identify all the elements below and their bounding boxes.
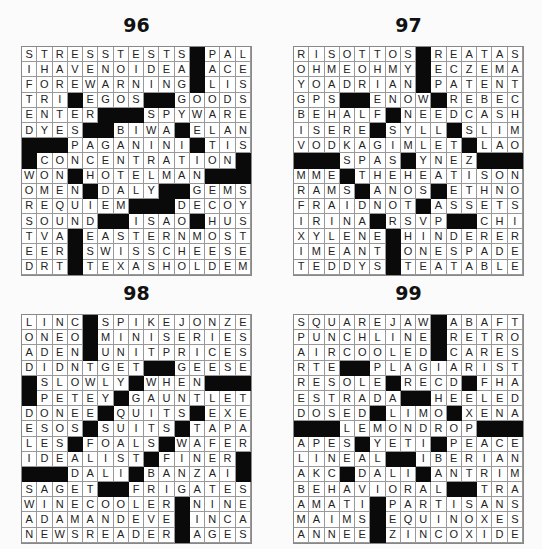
letter-cell: T [431,497,446,512]
letter-cell: S [159,421,174,436]
letter-cell: I [309,47,324,62]
letter-cell: T [236,229,251,244]
letter-cell: S [447,199,462,214]
black-square [386,376,401,391]
letter-cell: V [416,214,431,229]
letter-cell: A [220,47,235,62]
black-square [83,315,98,330]
letter-cell: S [144,47,159,62]
letter-cell: H [159,376,174,391]
letter-cell: D [447,108,462,123]
letter-cell: I [205,330,220,345]
letter-cell: C [447,345,462,360]
puzzle-98: 98 LINCSPIKEJONZEONEOMINISERIESADENUNITP… [21,314,252,544]
black-square [340,169,355,184]
letter-cell: I [492,123,507,138]
letter-cell: D [508,391,523,406]
black-square [370,497,385,512]
puzzle-number: 99 [293,282,524,304]
letter-cell: A [447,77,462,92]
black-square [190,62,205,77]
letter-cell: I [294,123,309,138]
black-square [98,406,113,421]
letter-cell: T [401,437,416,452]
letter-cell: O [309,406,324,421]
letter-cell: H [477,184,492,199]
letter-cell: Y [401,62,416,77]
letter-cell: N [175,467,190,482]
black-square [294,421,309,436]
letter-cell: G [129,391,144,406]
letter-cell: E [236,108,251,123]
letter-cell: T [83,361,98,376]
black-square [447,482,462,497]
letter-cell: I [325,214,340,229]
black-square [98,108,113,123]
letter-cell: M [416,406,431,421]
letter-cell: C [83,497,98,512]
letter-cell: S [401,47,416,62]
letter-cell: J [175,315,190,330]
letter-cell: V [355,482,370,497]
letter-cell: Y [401,123,416,138]
letter-cell: G [98,138,113,153]
black-square [236,452,251,467]
letter-cell: B [431,452,446,467]
letter-cell: O [98,437,113,452]
letter-cell: S [325,47,340,62]
black-square [68,93,83,108]
letter-cell: E [355,123,370,138]
black-square [53,467,68,482]
letter-cell: E [83,93,98,108]
black-square [98,214,113,229]
letter-cell: E [205,244,220,259]
letter-cell: T [205,138,220,153]
letter-cell: R [159,229,174,244]
letter-cell: R [355,315,370,330]
letter-cell: E [83,62,98,77]
letter-cell: A [159,214,174,229]
letter-cell: C [159,244,174,259]
letter-cell: S [447,244,462,259]
letter-cell: I [129,315,144,330]
letter-cell: A [114,184,129,199]
letter-cell: E [340,406,355,421]
letter-cell: E [220,391,235,406]
black-square [309,421,324,436]
letter-cell: L [477,391,492,406]
letter-cell: A [294,345,309,360]
letter-cell: E [325,244,340,259]
black-square [236,376,251,391]
letter-cell: R [236,437,251,452]
letter-cell: S [386,123,401,138]
black-square [159,199,174,214]
letter-cell: V [294,138,309,153]
puzzle-97: 97 RISOTTOSREATASOHMEOHMYECZEMAYOADRIANP… [293,46,524,276]
letter-cell: C [340,330,355,345]
letter-cell: M [294,512,309,527]
letter-cell: A [53,229,68,244]
letter-cell: B [477,260,492,275]
letter-cell: M [114,199,129,214]
letter-cell: Y [370,437,385,452]
letter-cell: E [309,108,324,123]
letter-cell: S [416,184,431,199]
letter-cell: E [462,437,477,452]
letter-cell: F [477,376,492,391]
letter-cell: W [416,93,431,108]
letter-cell: M [325,184,340,199]
letter-cell: T [22,229,37,244]
letter-cell: T [205,482,220,497]
letter-cell: O [22,184,37,199]
letter-cell: S [492,108,507,123]
letter-cell: N [190,452,205,467]
letter-cell: H [325,108,340,123]
black-square [355,361,370,376]
letter-cell: I [129,345,144,360]
letter-cell: N [53,406,68,421]
crossword-grid: RISOTTOSREATASOHMEOHMYECZEMAYOADRIANPATE… [293,46,524,276]
letter-cell: I [401,528,416,543]
letter-cell: I [114,467,129,482]
black-square [114,391,129,406]
letter-cell: I [386,330,401,345]
